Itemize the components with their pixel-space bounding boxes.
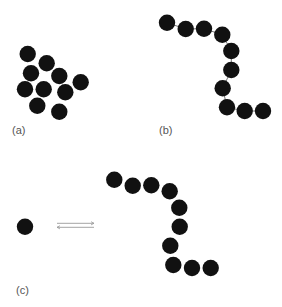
panel-b-label: (b) [159, 124, 172, 136]
particle [196, 21, 212, 37]
particle [178, 21, 194, 37]
particle [106, 172, 122, 188]
particle [57, 84, 73, 100]
particle [73, 74, 89, 90]
forward-arrow-icon [57, 222, 94, 225]
panel-a-cluster [17, 46, 89, 120]
particle [143, 177, 159, 193]
particle [39, 55, 55, 71]
particle [165, 257, 181, 273]
particle [29, 98, 45, 114]
particle [171, 200, 187, 216]
particle [219, 99, 235, 115]
particle [223, 43, 239, 59]
particle [184, 260, 200, 276]
panel-c-equilibrium [17, 172, 219, 277]
particle [17, 81, 33, 97]
particle [125, 178, 141, 194]
particle [159, 15, 175, 31]
particle [172, 219, 188, 235]
particle [223, 62, 239, 78]
single-particle [17, 219, 33, 235]
panel-b-chain [159, 15, 271, 120]
particle [36, 81, 52, 97]
figure-caption [14, 302, 254, 307]
particle [215, 80, 231, 96]
particle [203, 260, 219, 276]
particle [162, 238, 178, 254]
panel-a-label: (a) [12, 124, 25, 136]
particle [51, 68, 67, 84]
particle [162, 183, 178, 199]
particle [237, 103, 253, 119]
particle [20, 46, 36, 62]
particle [23, 65, 39, 81]
particle-aggregation-diagram [0, 0, 282, 307]
particle [255, 103, 271, 119]
particle [51, 104, 67, 120]
panel-c-label: (c) [16, 284, 29, 296]
particle [214, 27, 230, 43]
reverse-arrow-icon [57, 226, 94, 229]
